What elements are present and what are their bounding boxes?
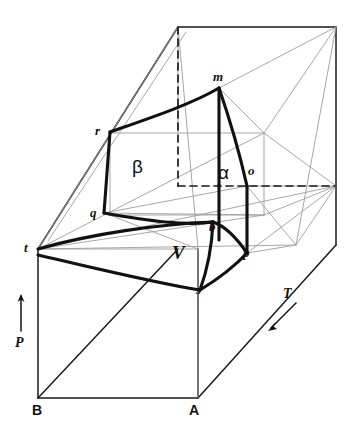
axis-label-pressure: P [15, 336, 24, 350]
inner-wireframe [38, 27, 336, 398]
point-label-b: b [209, 220, 216, 233]
region-label-beta: β [132, 157, 143, 176]
point-label-q: q [90, 206, 97, 219]
phase-boundary-curves [38, 88, 247, 290]
axis-label-temperature: T [283, 287, 292, 301]
axis-arrows [18, 294, 297, 331]
temperature-arrow-shaft [271, 303, 296, 328]
region-label-alpha: α [218, 163, 229, 182]
figure-canvas: m r o q b t p s β α V P T B A [0, 0, 354, 431]
corner-label-B: B [32, 403, 42, 417]
pvt-surface-diagram [0, 0, 354, 431]
outer-box-edges [38, 27, 336, 398]
point-label-r: r [95, 124, 100, 137]
point-label-m: m [213, 70, 223, 83]
point-label-s: s [196, 283, 201, 296]
point-label-o: o [248, 164, 255, 177]
corner-label-A: A [189, 403, 199, 417]
point-label-t: t [24, 241, 28, 254]
point-label-p: p [243, 246, 250, 259]
hidden-dashed-edges [178, 27, 336, 186]
region-label-volume: V [172, 243, 185, 262]
